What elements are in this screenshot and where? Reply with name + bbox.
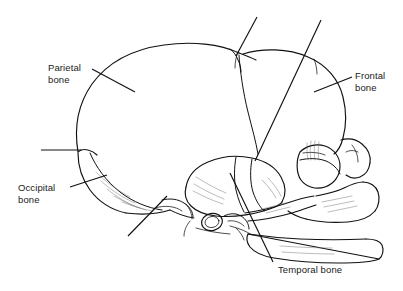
- mandible-outline: [247, 234, 383, 263]
- frontal-bone-region: [243, 50, 346, 154]
- label-frontal-bone: Frontal bone: [355, 70, 385, 93]
- infant-skull-diagram: [0, 0, 403, 291]
- label-occipital-bone: Occipital bone: [18, 182, 55, 205]
- leader-line-occipital: [70, 175, 107, 187]
- leader-line-mastoid: [128, 196, 167, 236]
- leader-line-frontal: [314, 77, 352, 92]
- maxilla-outline: [288, 182, 379, 222]
- external-auditory-meatus: [200, 212, 224, 233]
- tympanic-ring-region: [224, 214, 249, 240]
- orbital-rim: [297, 141, 340, 188]
- parietal-bone-region: [77, 43, 258, 154]
- leader-line-anterior-fontanelle: [236, 17, 257, 56]
- occipital-bone-region: [78, 150, 170, 214]
- nasal-region: [341, 139, 370, 178]
- leader-line-coronal-suture: [255, 20, 321, 161]
- leader-line-parietal: [92, 69, 135, 92]
- label-temporal-bone: Temporal bone: [278, 264, 342, 276]
- label-parietal-bone: Parietal bone: [48, 62, 81, 85]
